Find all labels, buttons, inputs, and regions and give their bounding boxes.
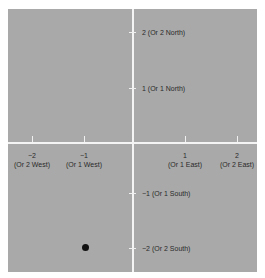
x-tick-value: −2 (14, 151, 50, 160)
y-tick-label-2: 2 (Or 2 North) (142, 28, 185, 37)
x-tick-neg2 (32, 136, 33, 142)
x-tick-label-1: 1 (Or 1 East) (168, 151, 202, 169)
y-tick-2 (129, 32, 136, 33)
plotted-point (82, 244, 89, 251)
y-tick-neg1 (129, 193, 136, 194)
x-tick-direction: (Or 2 West) (14, 160, 50, 169)
y-tick-label-1: 1 (Or 1 North) (142, 84, 185, 93)
y-tick-1 (129, 88, 136, 89)
x-tick-value: 2 (220, 151, 254, 160)
x-tick-neg1 (84, 136, 85, 142)
y-tick-label-neg1: −1 (Or 1 South) (142, 189, 190, 198)
y-tick-neg2 (129, 248, 136, 249)
x-tick-value: 1 (168, 151, 202, 160)
x-tick-label-neg2: −2 (Or 2 West) (14, 151, 50, 169)
x-tick-direction: (Or 1 West) (66, 160, 102, 169)
y-tick-label-neg2: −2 (Or 2 South) (142, 244, 190, 253)
x-tick-value: −1 (66, 151, 102, 160)
x-tick-label-neg1: −1 (Or 1 West) (66, 151, 102, 169)
x-tick-direction: (Or 1 East) (168, 160, 202, 169)
x-axis (8, 142, 257, 144)
y-axis (132, 9, 134, 272)
x-tick-1 (185, 136, 186, 142)
x-tick-2 (237, 136, 238, 142)
x-tick-label-2: 2 (Or 2 East) (220, 151, 254, 169)
x-tick-direction: (Or 2 East) (220, 160, 254, 169)
